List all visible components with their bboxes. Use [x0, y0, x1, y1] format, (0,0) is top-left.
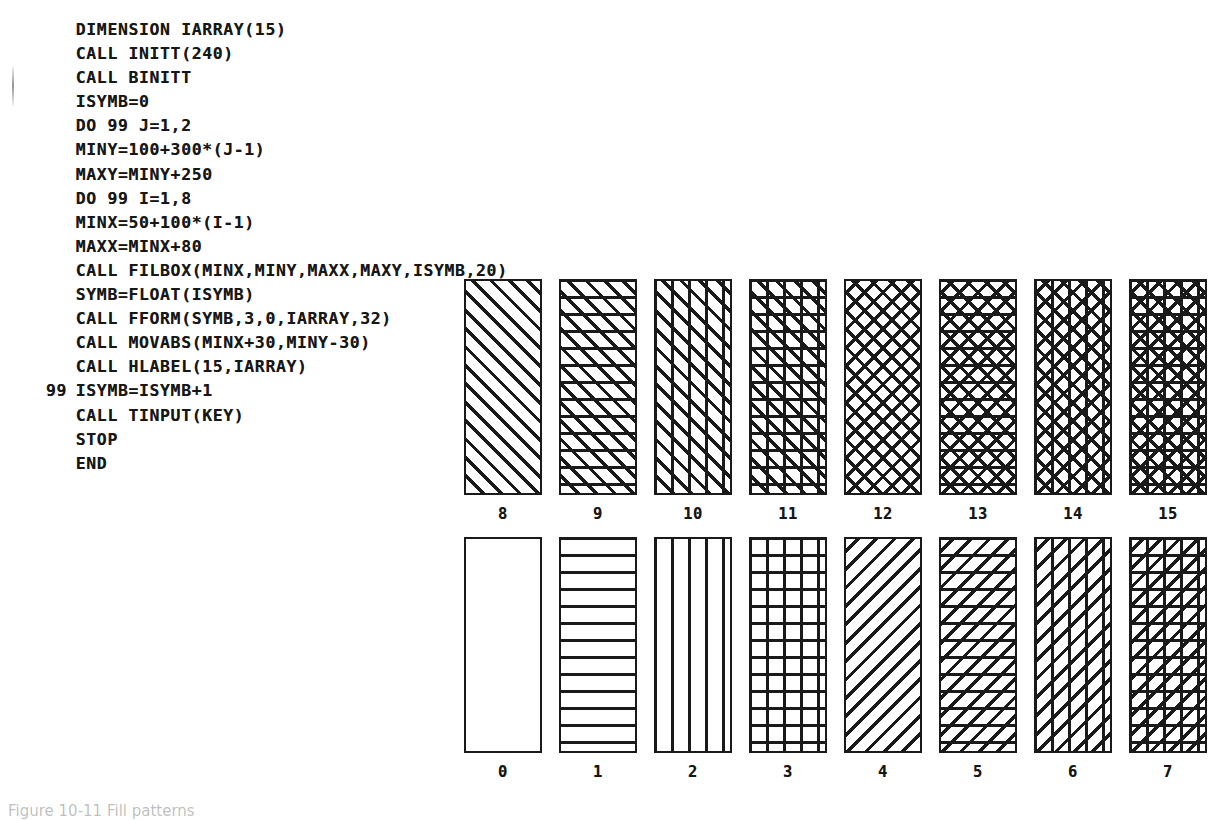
pattern-cell-1: 1	[559, 537, 637, 781]
pattern-fill-icon	[844, 279, 922, 495]
code-line: CALL TINPUT(KEY)	[46, 404, 476, 428]
code-line: DIMENSION IARRAY(15)	[46, 18, 476, 42]
code-line-text: CALL BINITT	[76, 68, 192, 87]
code-line-text: MAXX=MINX+80	[76, 237, 202, 256]
pattern-label: 3	[749, 763, 827, 781]
code-line-text: SYMB=FLOAT(ISYMB)	[76, 285, 255, 304]
figure-caption: Figure 10-11 Fill patterns	[8, 802, 195, 820]
code-line: 99ISYMB=ISYMB+1	[46, 379, 476, 403]
code-line-text: DO 99 I=1,8	[76, 189, 192, 208]
pattern-swatch-slash-diagonal-grid	[749, 279, 827, 495]
code-line: CALL HLABEL(15,IARRAY)	[46, 355, 476, 379]
pattern-label: 9	[559, 505, 637, 523]
code-line: CALL INITT(240)	[46, 42, 476, 66]
code-line: DO 99 J=1,2	[46, 114, 476, 138]
pattern-fill-icon	[749, 537, 827, 753]
code-line-text: STOP	[76, 430, 118, 449]
pattern-fill-icon	[939, 279, 1017, 495]
code-line-text: CALL FFORM(SYMB,3,0,IARRAY,32)	[76, 309, 392, 328]
pattern-label: 2	[654, 763, 732, 781]
pattern-cell-13: 13	[939, 279, 1017, 523]
code-line-text: DO 99 J=1,2	[76, 116, 192, 135]
pattern-label: 4	[844, 763, 922, 781]
pattern-cell-0: 0	[464, 537, 542, 781]
pattern-label: 5	[939, 763, 1017, 781]
pattern-label: 12	[844, 505, 922, 523]
pattern-cell-15: 15	[1129, 279, 1207, 523]
pattern-swatch-grid	[749, 537, 827, 753]
pattern-fill-icon	[464, 537, 542, 753]
pattern-label: 1	[559, 763, 637, 781]
pattern-cell-5: 5	[939, 537, 1017, 781]
margin-tick-artifact	[12, 66, 14, 106]
pattern-label: 6	[1034, 763, 1112, 781]
code-line-text: MAXY=MINY+250	[76, 165, 213, 184]
pattern-swatch-empty	[464, 537, 542, 753]
code-line-text: CALL MOVABS(MINX+30,MINY-30)	[76, 333, 371, 352]
code-line: DO 99 I=1,8	[46, 187, 476, 211]
code-line-text: CALL INITT(240)	[76, 44, 234, 63]
pattern-cell-10: 10	[654, 279, 732, 523]
pattern-swatch-cross-hatch-grid	[1129, 279, 1207, 495]
pattern-label: 8	[464, 505, 542, 523]
pattern-cell-2: 2	[654, 537, 732, 781]
pattern-fill-icon	[844, 537, 922, 753]
pattern-label: 14	[1034, 505, 1112, 523]
pattern-swatch-back-diagonal-grid	[1129, 537, 1207, 753]
code-line: CALL MOVABS(MINX+30,MINY-30)	[46, 331, 476, 355]
code-line: SYMB=FLOAT(ISYMB)	[46, 283, 476, 307]
pattern-swatch-back-diagonal-vertical	[1034, 537, 1112, 753]
pattern-label: 7	[1129, 763, 1207, 781]
pattern-label: 13	[939, 505, 1017, 523]
code-line-text: CALL FILBOX(MINX,MINY,MAXX,MAXY,ISYMB,20…	[76, 261, 508, 280]
pattern-cell-12: 12	[844, 279, 922, 523]
pattern-swatch-vertical-lines	[654, 537, 732, 753]
code-line: CALL FILBOX(MINX,MINY,MAXX,MAXY,ISYMB,20…	[46, 259, 476, 283]
pattern-cell-4: 4	[844, 537, 922, 781]
pattern-swatch-cross-hatch-horizontal	[939, 279, 1017, 495]
pattern-chart: 89101112131415 01234567	[464, 279, 1204, 799]
code-line: END	[46, 452, 476, 476]
pattern-swatch-back-diagonal	[844, 537, 922, 753]
pattern-cell-3: 3	[749, 537, 827, 781]
pattern-cell-9: 9	[559, 279, 637, 523]
code-line-text: CALL HLABEL(15,IARRAY)	[76, 357, 308, 376]
pattern-label: 0	[464, 763, 542, 781]
pattern-fill-icon	[1034, 537, 1112, 753]
code-line: MINY=100+300*(J-1)	[46, 138, 476, 162]
code-line-text: MINY=100+300*(J-1)	[76, 140, 266, 159]
code-line-text: END	[76, 454, 108, 473]
code-line: STOP	[46, 428, 476, 452]
code-line: ISYMB=0	[46, 90, 476, 114]
pattern-swatch-cross-hatch-diagonal	[844, 279, 922, 495]
code-line-text: ISYMB=0	[76, 92, 150, 111]
pattern-row-lower: 01234567	[464, 537, 1204, 787]
code-line: CALL FFORM(SYMB,3,0,IARRAY,32)	[46, 307, 476, 331]
code-line: MINX=50+100*(I-1)	[46, 211, 476, 235]
pattern-fill-icon	[749, 279, 827, 495]
pattern-cell-7: 7	[1129, 537, 1207, 781]
code-listing: DIMENSION IARRAY(15)CALL INITT(240)CALL …	[46, 18, 476, 476]
pattern-label: 15	[1129, 505, 1207, 523]
code-line: CALL BINITT	[46, 66, 476, 90]
pattern-swatch-back-diagonal-horizontal	[939, 537, 1017, 753]
code-line-text: DIMENSION IARRAY(15)	[76, 20, 287, 39]
pattern-fill-icon	[1034, 279, 1112, 495]
pattern-fill-icon	[654, 279, 732, 495]
pattern-fill-icon	[559, 279, 637, 495]
code-line-label: 99	[46, 379, 76, 403]
pattern-fill-icon	[559, 537, 637, 753]
pattern-swatch-horizontal-lines	[559, 537, 637, 753]
pattern-cell-11: 11	[749, 279, 827, 523]
pattern-cell-14: 14	[1034, 279, 1112, 523]
pattern-cell-6: 6	[1034, 537, 1112, 781]
pattern-fill-icon	[1129, 279, 1207, 495]
pattern-fill-icon	[939, 537, 1017, 753]
pattern-swatch-slash-diagonal-horizontal	[559, 279, 637, 495]
code-line-text: MINX=50+100*(I-1)	[76, 213, 255, 232]
pattern-fill-icon	[654, 537, 732, 753]
pattern-label: 11	[749, 505, 827, 523]
pattern-label: 10	[654, 505, 732, 523]
code-line: MAXX=MINX+80	[46, 235, 476, 259]
pattern-fill-icon	[1129, 537, 1207, 753]
